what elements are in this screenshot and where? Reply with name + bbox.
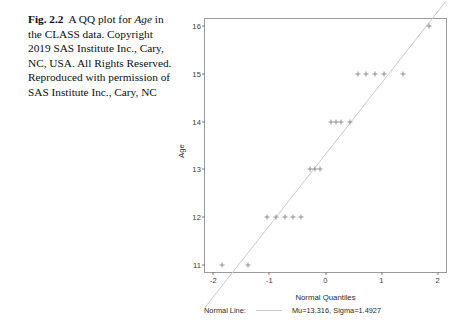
x-tick-label: 1 <box>379 276 383 285</box>
x-tick-label: -2 <box>210 276 217 285</box>
x-tick-mark <box>437 272 438 275</box>
legend-line-swatch <box>256 310 282 311</box>
x-tick-mark <box>269 272 270 275</box>
normal-reference-line <box>205 19 446 272</box>
caption-emphasis: Age <box>134 13 152 25</box>
figure-page: Fig. 2.2A QQ plot for Age in the CLASS d… <box>0 0 472 327</box>
y-tick-label: 13 <box>192 165 201 174</box>
legend-parameters: Mu=13.316, Sigma=1.4927 <box>292 306 381 315</box>
y-tick-mark <box>202 121 205 122</box>
x-tick-label: 2 <box>435 276 439 285</box>
x-tick-label: 0 <box>323 276 327 285</box>
y-tick-label: 12 <box>192 213 201 222</box>
caption-text-before: A QQ plot for <box>68 13 134 25</box>
y-tick-mark <box>202 169 205 170</box>
figure-caption: Fig. 2.2A QQ plot for Age in the CLASS d… <box>28 12 178 100</box>
caption-text-after: in the CLASS data. Copyright 2019 SAS In… <box>28 13 171 98</box>
plot-area: 111213141516 -2-1012 <box>204 18 447 273</box>
y-tick-label: 11 <box>193 260 201 269</box>
y-tick-mark <box>202 264 205 265</box>
y-tick-label: 16 <box>192 22 201 31</box>
qq-plot-figure: Age Normal Quantiles 111213141516 -2-101… <box>178 6 468 321</box>
x-tick-mark <box>213 272 214 275</box>
chart-legend: Normal Line: Mu=13.316, Sigma=1.4927 <box>204 306 464 315</box>
y-axis-title: Age <box>177 144 186 158</box>
y-tick-mark <box>202 73 205 74</box>
x-tick-mark <box>381 272 382 275</box>
y-tick-label: 14 <box>192 117 201 126</box>
figure-number: Fig. 2.2 <box>28 13 63 25</box>
legend-series-label: Normal Line: <box>204 306 246 315</box>
x-axis-title: Normal Quantiles <box>204 293 447 302</box>
x-tick-label: -1 <box>266 276 273 285</box>
x-tick-mark <box>325 272 326 275</box>
y-tick-mark <box>202 26 205 27</box>
y-tick-label: 15 <box>192 69 201 78</box>
y-tick-mark <box>202 217 205 218</box>
